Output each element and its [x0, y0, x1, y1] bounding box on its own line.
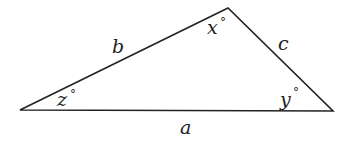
degree-icon: °: [293, 85, 299, 99]
triangle-diagram: b c a x ° z ° y °: [0, 0, 349, 142]
degree-icon: °: [220, 15, 226, 29]
angle-y-letter: y: [279, 88, 291, 110]
angle-label-x: x °: [207, 15, 226, 38]
side-label-a: a: [180, 116, 191, 138]
angle-z-letter: z: [56, 88, 68, 110]
angle-label-z: z °: [56, 87, 76, 110]
angle-x-letter: x: [207, 16, 218, 38]
side-label-c: c: [278, 32, 289, 54]
degree-icon: °: [70, 87, 76, 101]
angle-label-y: y °: [279, 85, 299, 110]
side-label-b: b: [112, 35, 124, 57]
